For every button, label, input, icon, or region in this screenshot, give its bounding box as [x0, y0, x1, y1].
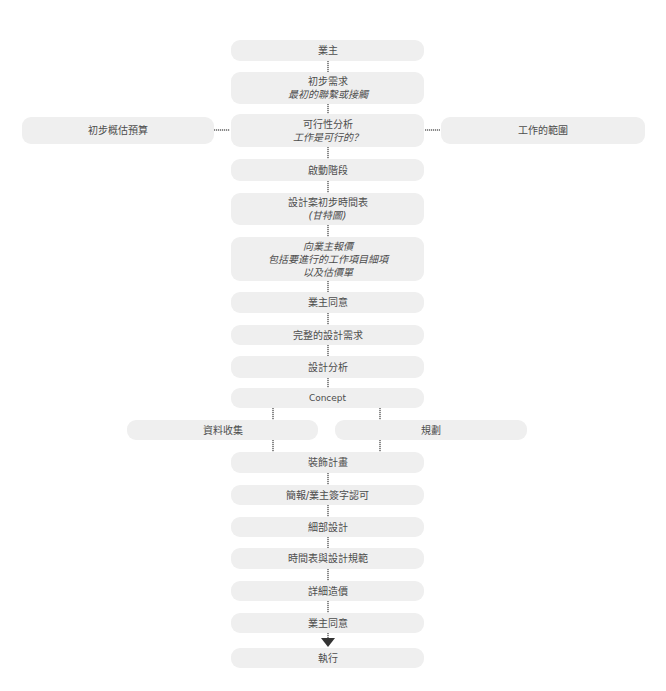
node-label: 啟動階段 [308, 164, 348, 177]
connector [327, 378, 329, 388]
node-sublabel: 工作是可行的？ [293, 131, 363, 144]
node-detailed-cost: 詳細造價 [231, 581, 424, 601]
node-feasibility: 可行性分析 工作是可行的？ [231, 114, 424, 147]
node-owner: 業主 [231, 40, 424, 61]
node-label: 簡報/業主簽字認可 [286, 489, 369, 502]
connector [327, 601, 329, 613]
connector [379, 440, 381, 452]
node-sublabel: 最初的聯繫或接觸 [288, 88, 368, 101]
connector [425, 129, 440, 131]
node-label: 工作的範圍 [518, 124, 568, 137]
node-label: 細部設計 [308, 521, 348, 534]
node-decoration-plan: 裝飾計畫 [231, 452, 424, 473]
node-concept: Concept [231, 388, 424, 408]
connector [272, 440, 274, 452]
node-quotation: 向業主報價 包括要進行的工作項目細項 以及估價單 [231, 237, 424, 281]
node-sublabel: (甘特圖) [309, 209, 347, 222]
connector [327, 61, 329, 72]
connector [327, 473, 329, 485]
node-schedule-spec: 時間表與設計規範 [231, 548, 424, 569]
node-label: 業主 [318, 44, 338, 57]
connector [327, 104, 329, 114]
node-label: 初步需求 [308, 75, 348, 88]
node-owner-agree-2: 業主同意 [231, 613, 424, 633]
node-label: 資料收集 [203, 424, 243, 437]
connector [327, 345, 329, 356]
connector [327, 569, 329, 581]
node-label: 初步概估預算 [88, 124, 148, 137]
connector [327, 505, 329, 517]
node-label: 規劃 [421, 424, 441, 437]
node-sublabel: 包括要進行的工作項目細項 [268, 253, 388, 266]
connector [327, 225, 329, 237]
node-full-requirements: 完整的設計需求 [231, 325, 424, 345]
node-initial-requirement: 初步需求 最初的聯繫或接觸 [231, 72, 424, 104]
connector [379, 408, 381, 420]
node-initial-budget: 初步概估預算 [22, 117, 214, 144]
node-label: 完整的設計需求 [293, 329, 363, 342]
node-execution: 執行 [231, 648, 424, 668]
connector [327, 281, 329, 292]
node-design-analysis: 設計分析 [231, 356, 424, 378]
node-data-collection: 資料收集 [127, 420, 318, 440]
connector [272, 408, 274, 420]
node-label: 設計分析 [308, 361, 348, 374]
node-label: 業主同意 [308, 296, 348, 309]
node-kickoff: 啟動階段 [231, 159, 424, 181]
node-owner-agree-1: 業主同意 [231, 292, 424, 313]
node-planning: 規劃 [335, 420, 527, 440]
node-label: 向業主報價 [303, 240, 353, 253]
connector [214, 129, 230, 131]
node-label: Concept [309, 392, 346, 405]
node-schedule: 設計案初步時間表 (甘特圖) [231, 193, 424, 225]
connector [327, 181, 329, 193]
connector [327, 537, 329, 548]
node-label: 時間表與設計規範 [288, 552, 368, 565]
node-label: 裝飾計畫 [308, 456, 348, 469]
node-label: 業主同意 [308, 617, 348, 630]
connector [327, 313, 329, 325]
node-detailed-design: 細部設計 [231, 517, 424, 537]
node-sublabel: 以及估價單 [303, 266, 353, 279]
arrow-down-icon [321, 638, 335, 647]
node-label: 可行性分析 [303, 118, 353, 131]
node-label: 設計案初步時間表 [288, 196, 368, 209]
node-label: 執行 [318, 652, 338, 665]
node-label: 詳細造價 [308, 585, 348, 598]
node-scope-of-work: 工作的範圍 [441, 117, 645, 144]
connector [327, 147, 329, 159]
node-presentation: 簡報/業主簽字認可 [231, 485, 424, 505]
